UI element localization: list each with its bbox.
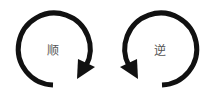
counterclockwise-label: 逆 <box>154 44 166 58</box>
rotation-diagram <box>0 0 215 97</box>
clockwise-label: 顺 <box>47 44 59 58</box>
